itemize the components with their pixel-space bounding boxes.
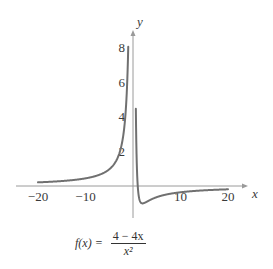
x-axis-label: x <box>251 186 258 201</box>
caption-denominator: x² <box>124 244 133 258</box>
caption-numerator: 4 − 4x <box>111 229 146 244</box>
x-tick-label: −10 <box>75 189 95 204</box>
y-tick-label: 8 <box>119 40 126 55</box>
x-tick-label: −20 <box>28 189 48 204</box>
caption-fraction: 4 − 4x x² <box>111 229 146 258</box>
y-tick-label: 6 <box>119 75 126 90</box>
curve-left-branch <box>38 47 128 183</box>
y-axis-label: y <box>135 14 143 29</box>
y-axis-arrow-icon <box>131 30 136 36</box>
caption-lhs: f(x) = <box>75 236 103 251</box>
x-tick-label: 20 <box>222 189 235 204</box>
function-caption: f(x) = 4 − 4x x² <box>75 229 146 258</box>
x-axis-arrow-icon <box>242 184 248 189</box>
